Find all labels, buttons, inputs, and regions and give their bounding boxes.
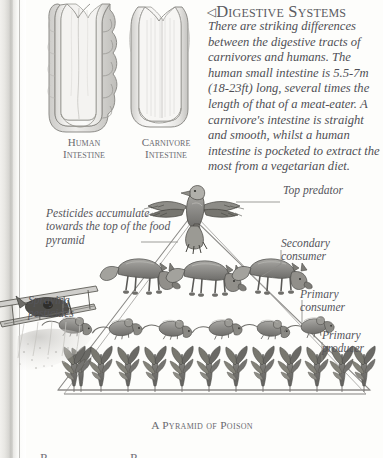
label-spraying-pesticides: Spraying pesticides — [28, 294, 116, 321]
cutoff-text-a: P — [40, 450, 47, 458]
triangle-marker-icon: ◁ — [207, 5, 216, 19]
article-body-text: There are striking differences between t… — [208, 19, 383, 175]
label-top-predator: Top predator — [283, 184, 381, 197]
caption-carnivore-intestine: Carnivore Intestine — [124, 136, 208, 161]
caption-carnivore-line1: Carnivore — [124, 136, 208, 148]
label-secondary-consumer: Secondary consumer — [281, 237, 373, 264]
human-intestine-illustration — [44, 2, 124, 134]
caption-pyramid-of-poison: A Pyramid of Poison — [92, 419, 312, 432]
pyramid-of-poison-diagram: Pesticides accumulate towards the top of… — [0, 176, 383, 458]
caption-carnivore-line2: Intestine — [124, 148, 208, 160]
caption-human-line1: Human — [42, 136, 126, 148]
label-primary-producer: Primary producer — [322, 329, 383, 356]
book-page-spread: Human Intestine — [0, 0, 383, 458]
caption-human-line2: Intestine — [42, 148, 126, 160]
label-pesticides-accumulate: Pesticides accumulate towards the top of… — [46, 207, 186, 247]
carnivore-intestine-illustration — [126, 4, 196, 132]
cutoff-text-b: P — [130, 450, 137, 458]
cutoff-text-row: P P — [26, 450, 383, 458]
label-primary-consumer: Primary consumer — [300, 288, 382, 315]
caption-human-intestine: Human Intestine — [42, 136, 126, 161]
